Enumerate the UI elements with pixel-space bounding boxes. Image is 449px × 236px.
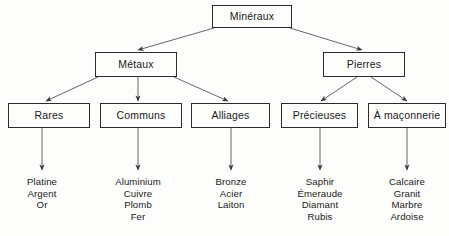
leaf-list-precieuses: SaphirÉmeraudeDiamantRubis <box>297 176 342 222</box>
leaf-item: Émeraude <box>297 188 342 200</box>
edge-pierres-to-maconnerie <box>371 77 407 101</box>
diagram-canvas: Minéraux Métaux Pierres Rares Communs Al… <box>0 0 449 236</box>
leaf-item: Cuivre <box>115 188 161 200</box>
edge-metaux-to-rares <box>46 77 98 101</box>
leaf-item: Acier <box>216 188 247 200</box>
node-label: Communs <box>117 110 166 121</box>
leaf-item: Aluminium <box>115 176 161 188</box>
edge-root-to-metaux <box>138 28 214 50</box>
leaf-item: Saphir <box>297 176 342 188</box>
edge-pierres-to-precieuses <box>321 77 357 101</box>
node-a-maconnerie[interactable]: À maçonnerie <box>368 103 446 128</box>
node-precieuses[interactable]: Précieuses <box>281 103 358 128</box>
node-alliages[interactable]: Alliages <box>191 103 270 128</box>
leaf-item: Granit <box>389 188 425 200</box>
leaf-list-alliages: BronzeAcierLaiton <box>216 176 247 211</box>
node-communs[interactable]: Communs <box>100 103 182 128</box>
leaf-item: Fer <box>115 211 161 223</box>
leaf-item: Or <box>27 199 57 211</box>
leaf-item: Calcaire <box>389 176 425 188</box>
leaf-item: Platine <box>27 176 57 188</box>
leaf-item: Rubis <box>297 211 342 223</box>
node-mineraux[interactable]: Minéraux <box>212 5 292 28</box>
edge-metaux-to-alliages <box>174 77 228 101</box>
edge-group <box>42 28 407 170</box>
leaf-list-communs: AluminiumCuivrePlombFer <box>115 176 161 222</box>
leaf-item: Argent <box>27 188 57 200</box>
node-label: Alliages <box>212 110 250 121</box>
node-label: À maçonnerie <box>374 110 441 121</box>
node-rares[interactable]: Rares <box>8 103 90 128</box>
edge-root-to-pierres <box>290 28 362 50</box>
leaf-item: Marbre <box>389 199 425 211</box>
leaf-item: Ardoise <box>389 211 425 223</box>
node-label: Métaux <box>118 59 153 70</box>
leaf-list-rares: PlatineArgentOr <box>27 176 57 211</box>
node-metaux[interactable]: Métaux <box>95 52 177 77</box>
leaf-list-maconnerie: CalcaireGranitMarbreArdoise <box>389 176 425 222</box>
leaf-item: Diamant <box>297 199 342 211</box>
node-pierres[interactable]: Pierres <box>323 52 405 77</box>
node-label: Rares <box>35 110 64 121</box>
leaf-item: Plomb <box>115 199 161 211</box>
leaf-item: Laiton <box>216 199 247 211</box>
leaf-item: Bronze <box>216 176 247 188</box>
node-label: Minéraux <box>230 11 274 22</box>
node-label: Précieuses <box>293 110 346 121</box>
node-label: Pierres <box>347 59 381 70</box>
